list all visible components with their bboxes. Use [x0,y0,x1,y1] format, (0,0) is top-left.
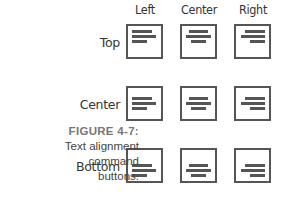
figure-number: FIGURE 4-7: [65,124,139,139]
text-line-icon [241,102,265,105]
col-label-right: Right [225,2,281,17]
align-bottom-right-button[interactable] [234,148,271,183]
text-line-icon [191,107,206,110]
text-line-icon [241,35,265,38]
text-line-icon [250,107,265,110]
text-line-icon [132,30,152,33]
text-line-icon [132,107,147,110]
text-line-icon [191,174,206,177]
text-line-icon [132,40,147,43]
text-line-icon [132,97,152,100]
align-top-right-button[interactable] [234,24,271,59]
align-center-left-button[interactable] [126,86,163,121]
text-line-icon [245,97,265,100]
align-top-left-button[interactable] [126,24,163,59]
text-line-icon [189,164,208,167]
row-label-center: Center [80,97,120,112]
text-line-icon [186,35,211,38]
caption-line: command [65,154,139,169]
text-line-icon [245,164,265,167]
text-line-icon [189,97,208,100]
text-line-icon [191,40,206,43]
align-center-center-button[interactable] [180,86,217,121]
text-line-icon [250,174,265,177]
text-line-icon [186,102,211,105]
text-line-icon [245,30,265,33]
align-top-center-button[interactable] [180,24,217,59]
row-label-top: Top [100,35,120,50]
text-line-icon [186,169,211,172]
align-center-right-button[interactable] [234,86,271,121]
text-line-icon [132,35,156,38]
caption-line: buttons. [65,169,139,184]
text-line-icon [132,102,156,105]
align-bottom-center-button[interactable] [180,148,217,183]
col-label-center: Center [171,2,227,17]
caption-line: Text alignment [65,139,139,154]
text-line-icon [241,169,265,172]
text-line-icon [189,30,208,33]
col-label-left: Left [117,2,173,17]
figure-caption: FIGURE 4-7: Text alignment command butto… [65,124,139,184]
text-line-icon [250,40,265,43]
